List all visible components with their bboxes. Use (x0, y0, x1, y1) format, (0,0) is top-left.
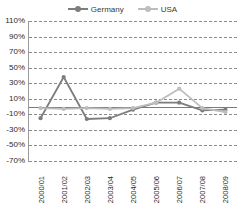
plot-area (29, 21, 237, 161)
x-tick-label: 2006/07 (175, 176, 184, 203)
data-point[interactable] (200, 106, 204, 110)
data-point[interactable] (131, 106, 135, 110)
legend-item-usa[interactable]: USA (138, 5, 177, 14)
y-tick-label: 10% (9, 95, 25, 103)
series-line-germany (41, 77, 226, 119)
x-tick-label: 2003/04 (106, 176, 115, 203)
y-tick-label: 70% (9, 48, 25, 56)
x-tick-label: 2001/02 (60, 176, 69, 203)
y-tick-label: 50% (9, 64, 25, 72)
y-tick-label: -10% (6, 110, 25, 118)
x-tick-label: 2007/08 (198, 176, 207, 203)
x-axis-labels: 2000/012001/022002/032003/042004/052005/… (29, 161, 237, 203)
y-tick-label: -70% (6, 157, 25, 165)
data-point[interactable] (223, 110, 227, 114)
legend-label-germany: Germany (91, 5, 124, 14)
data-point[interactable] (108, 107, 112, 111)
data-point[interactable] (62, 75, 66, 79)
y-tick-label: -30% (6, 126, 25, 134)
series-layer (29, 21, 237, 161)
chart-legend: Germany USA (0, 2, 245, 16)
x-tick-label: 2005/06 (152, 176, 161, 203)
x-tick-label: 2008/09 (221, 176, 230, 203)
x-tick-label: 2002/03 (83, 176, 92, 203)
y-tick-label: 110% (5, 17, 25, 25)
data-point[interactable] (108, 116, 112, 120)
data-point[interactable] (85, 106, 89, 110)
y-axis-labels: 110%90%70%50%30%10%-10%-30%-50%-70% (0, 21, 28, 161)
legend-item-germany[interactable]: Germany (68, 5, 124, 14)
legend-label-usa: USA (161, 5, 177, 14)
x-tick-label: 2000/01 (37, 176, 46, 203)
y-tick-label: 90% (9, 33, 25, 41)
y-tick-label: 30% (9, 79, 25, 87)
data-point[interactable] (177, 87, 181, 91)
data-point[interactable] (62, 107, 66, 111)
data-point[interactable] (38, 106, 42, 110)
data-point[interactable] (38, 116, 42, 120)
legend-swatch-usa-icon (138, 5, 158, 13)
data-point[interactable] (85, 117, 89, 121)
y-tick-label: -50% (6, 141, 25, 149)
legend-swatch-germany-icon (68, 5, 88, 13)
x-tick-label: 2004/05 (129, 176, 138, 203)
data-point[interactable] (154, 101, 158, 105)
line-chart: Germany USA 110%90%70%50%30%10%-10%-30%-… (0, 0, 245, 203)
data-point[interactable] (177, 101, 181, 105)
